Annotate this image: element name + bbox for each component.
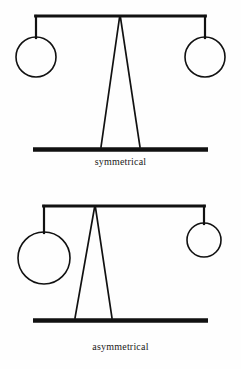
weight-right-symmetrical (185, 37, 225, 77)
caption-asymmetrical: asymmetrical (0, 341, 241, 353)
fulcrum-leg-right-asymmetrical (95, 207, 112, 318)
weight-right-asymmetrical (187, 223, 221, 257)
weight-left-asymmetrical (18, 232, 70, 284)
diagram-canvas: symmetrical asymmetrical (0, 0, 241, 369)
caption-symmetrical: symmetrical (0, 156, 241, 168)
fulcrum-leg-left-symmetrical (101, 17, 120, 147)
fulcrum-leg-left-asymmetrical (75, 207, 95, 318)
fulcrum-leg-right-symmetrical (120, 17, 140, 147)
weight-left-symmetrical (16, 37, 56, 77)
